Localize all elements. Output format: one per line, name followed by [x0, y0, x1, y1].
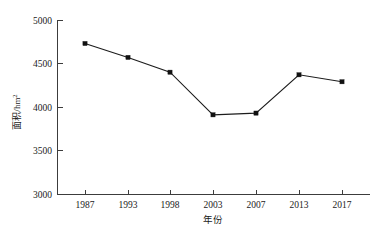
data-point-marker: [83, 41, 87, 45]
y-axis-title: 面积/hm2: [11, 94, 22, 129]
data-point-marker: [211, 113, 215, 117]
chart-background: [0, 0, 379, 246]
line-chart: 3000 3500 4000 4500 5000 1987 1993 1998 …: [0, 0, 379, 246]
data-point-marker: [340, 80, 344, 84]
x-tick-label-1993: 1993: [119, 200, 138, 210]
data-point-marker: [297, 73, 301, 77]
data-point-marker: [126, 55, 130, 59]
x-tick-label-1998: 1998: [161, 200, 180, 210]
y-tick-label-4000: 4000: [33, 103, 52, 113]
data-point-marker: [168, 70, 172, 74]
x-axis-title: 年份: [203, 214, 223, 225]
x-tick-label-2003: 2003: [204, 200, 223, 210]
y-tick-label-3500: 3500: [33, 146, 52, 156]
x-tick-label-2017: 2017: [333, 200, 352, 210]
y-tick-label-4500: 4500: [33, 59, 52, 69]
y-axis-title-superscript: 2: [11, 94, 18, 97]
y-tick-label-5000: 5000: [33, 16, 52, 26]
x-tick-label-1987: 1987: [76, 200, 95, 210]
x-tick-label-2013: 2013: [290, 200, 309, 210]
x-tick-label-2007: 2007: [247, 200, 266, 210]
svg-text:面积/hm2: 面积/hm2: [11, 94, 22, 129]
y-axis-title-base: 面积/hm: [11, 98, 22, 130]
chart-canvas: 3000 3500 4000 4500 5000 1987 1993 1998 …: [0, 0, 379, 246]
data-point-marker: [254, 111, 258, 115]
y-tick-label-3000: 3000: [33, 190, 52, 200]
